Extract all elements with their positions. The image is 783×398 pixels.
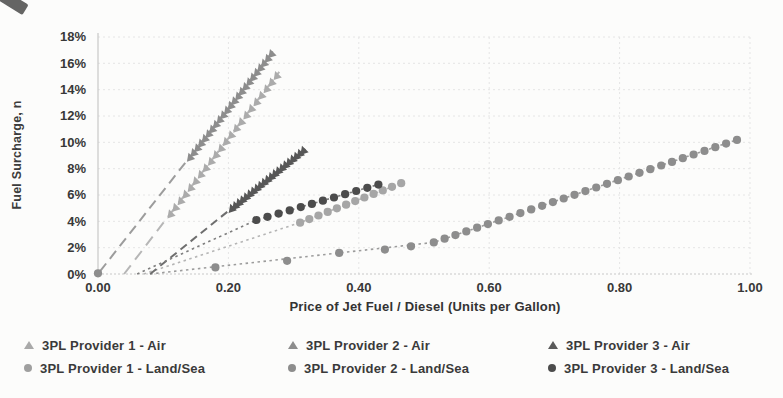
data-point-circle: [668, 158, 676, 166]
triangle-marker-icon: [548, 341, 558, 349]
data-point-circle: [374, 181, 382, 189]
data-point-circle: [733, 136, 741, 144]
legend-label: 3PL Provider 1 - Land/Sea: [40, 361, 205, 376]
data-point-circle: [560, 194, 568, 202]
legend-item-3pl-provider-1-land-sea: 3PL Provider 1 - Land/Sea: [24, 360, 205, 376]
data-point-circle: [286, 206, 294, 214]
legend-item-3pl-provider-2-air: 3PL Provider 2 - Air: [288, 337, 430, 353]
series-3pl-provider-1-air: [124, 70, 282, 274]
legend-item-3pl-provider-3-air: 3PL Provider 3 - Air: [548, 337, 690, 353]
data-point-circle: [330, 193, 338, 201]
y-tick-label: 16%: [60, 56, 86, 71]
y-tick-label: 10%: [60, 135, 86, 150]
data-point-circle: [211, 263, 219, 271]
data-point-circle: [263, 213, 271, 221]
data-point-circle: [657, 161, 665, 169]
y-tick-label: 14%: [60, 82, 86, 97]
data-point-circle: [690, 150, 698, 158]
data-point-circle: [314, 211, 322, 219]
data-point-triangle: [271, 70, 282, 80]
data-point-circle: [335, 249, 343, 257]
data-point-circle: [370, 190, 378, 198]
y-tick-label: 12%: [60, 108, 86, 123]
x-tick-label: 0.40: [346, 280, 371, 295]
data-point-circle: [397, 179, 405, 187]
data-point-circle: [473, 224, 481, 232]
legend-label: 3PL Provider 3 - Land/Sea: [564, 361, 729, 376]
data-point-circle: [283, 257, 291, 265]
data-point-circle: [711, 143, 719, 151]
data-point-circle: [625, 172, 633, 180]
data-point-circle: [679, 154, 687, 162]
data-point-circle: [614, 176, 622, 184]
data-point-circle: [506, 213, 514, 221]
data-point-circle: [495, 216, 503, 224]
legend-item-3pl-provider-2-land-sea: 3PL Provider 2 - Land/Sea: [288, 360, 469, 376]
data-point-circle: [341, 190, 349, 198]
data-point-circle: [297, 203, 305, 211]
data-point-circle: [305, 215, 313, 223]
circle-marker-icon: [288, 364, 296, 372]
circle-marker-icon: [548, 364, 556, 372]
data-point-circle: [570, 191, 578, 199]
y-tick-label: 18%: [60, 29, 86, 44]
y-tick-label: 8%: [67, 161, 86, 176]
data-point-circle: [296, 219, 304, 227]
data-point-circle: [451, 231, 459, 239]
gridlines: [98, 37, 752, 274]
x-tick-label: 0.80: [607, 280, 632, 295]
data-point-circle: [635, 169, 643, 177]
data-point-circle: [352, 187, 360, 195]
data-point-circle: [538, 202, 546, 210]
circle-marker-icon: [24, 364, 32, 372]
chart-legend: 3PL Provider 1 - Air3PL Provider 1 - Lan…: [0, 330, 783, 398]
legend-label: 3PL Provider 2 - Air: [306, 338, 430, 353]
y-tick-label: 2%: [67, 240, 86, 255]
data-point-circle: [516, 209, 524, 217]
x-axis-title: Price of Jet Fuel / Diesel (Units per Ga…: [98, 299, 752, 314]
scanned-figure-page: 0%2%4%6%8%10%12%14%16%18%0.000.200.400.6…: [0, 0, 783, 398]
data-point-circle: [94, 269, 102, 277]
data-point-circle: [527, 205, 535, 213]
data-point-circle: [381, 246, 389, 254]
data-point-circle: [360, 193, 368, 201]
series-3pl-provider-1-land-sea: [144, 179, 406, 274]
data-point-circle: [700, 147, 708, 155]
triangle-marker-icon: [24, 341, 34, 349]
data-point-circle: [441, 235, 449, 243]
data-point-circle: [275, 210, 283, 218]
trendline-3pl-provider-3-land-sea: [137, 184, 378, 274]
data-point-circle: [592, 183, 600, 191]
data-point-circle: [351, 197, 359, 205]
legend-label: 3PL Provider 3 - Air: [566, 338, 690, 353]
tick-labels: 0%2%4%6%8%10%12%14%16%18%0.000.200.400.6…: [60, 29, 763, 295]
legend-label: 3PL Provider 1 - Air: [42, 338, 166, 353]
data-point-circle: [722, 140, 730, 148]
data-point-circle: [581, 187, 589, 195]
x-tick-label: 0.60: [477, 280, 502, 295]
triangle-marker-icon: [288, 341, 298, 349]
y-axis-title: Fuel Surcharge, n: [10, 80, 24, 230]
legend-label: 3PL Provider 2 - Land/Sea: [304, 361, 469, 376]
x-tick-label: 0.20: [216, 280, 241, 295]
fuel-surcharge-chart: 0%2%4%6%8%10%12%14%16%18%0.000.200.400.6…: [0, 0, 783, 330]
data-point-circle: [646, 165, 654, 173]
data-point-circle: [363, 184, 371, 192]
data-point-circle: [462, 227, 470, 235]
data-point-circle: [430, 238, 438, 246]
data-point-circle: [308, 200, 316, 208]
data-point-circle: [603, 180, 611, 188]
data-point-circle: [342, 201, 350, 209]
data-point-circle: [324, 208, 332, 216]
y-tick-label: 0%: [67, 267, 86, 282]
x-tick-label: 1.00: [737, 280, 762, 295]
data-point-circle: [333, 204, 341, 212]
data-point-circle: [407, 242, 415, 250]
data-point-circle: [319, 197, 327, 205]
data-point-circle: [549, 198, 557, 206]
data-point-circle: [252, 216, 260, 224]
legend-item-3pl-provider-1-air: 3PL Provider 1 - Air: [24, 337, 166, 353]
data-point-circle: [388, 183, 396, 191]
legend-item-3pl-provider-3-land-sea: 3PL Provider 3 - Land/Sea: [548, 360, 729, 376]
x-tick-label: 0.00: [85, 280, 110, 295]
